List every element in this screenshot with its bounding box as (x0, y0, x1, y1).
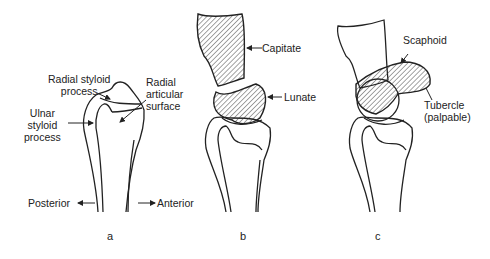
radius-bone-a (84, 82, 145, 212)
label-line: (palpable) (424, 111, 471, 123)
label-radial-articular-surface: Radial articular surface (146, 76, 183, 112)
label-line: process (48, 85, 110, 97)
label-line: surface (146, 100, 183, 112)
label-line: Radial styloid (48, 73, 110, 85)
label-anterior: Anterior (157, 197, 194, 209)
panel-caption-c: c (375, 230, 381, 242)
label-capitate: Capitate (262, 42, 301, 54)
label-line: Radial (146, 76, 183, 88)
label-arrows-a (68, 93, 155, 203)
radius-bone-b (205, 117, 270, 212)
label-ulnar-styloid-process: Ulnar styloid process (24, 107, 61, 143)
label-posterior: Posterior (28, 197, 70, 209)
label-line: styloid (24, 119, 61, 131)
scaphoid-bone (356, 62, 430, 114)
label-line: Tubercle (424, 99, 471, 111)
label-lunate: Lunate (284, 91, 316, 103)
label-line: Ulnar (24, 107, 61, 119)
panel-caption-a: a (107, 230, 113, 242)
label-radial-styloid-process: Radial styloid process (48, 73, 110, 97)
label-scaphoid: Scaphoid (403, 34, 447, 46)
label-tubercle-palpable: Tubercle (palpable) (424, 99, 471, 123)
panel-caption-b: b (240, 230, 246, 242)
label-line: process (24, 131, 61, 143)
capitate-bone (197, 14, 244, 86)
label-line: articular (146, 88, 183, 100)
